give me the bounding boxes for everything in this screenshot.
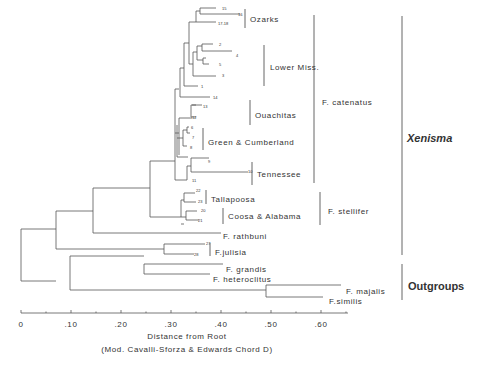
terminal-number: 1: [201, 84, 204, 89]
species-label: F. rathbuni: [223, 232, 267, 241]
terminal-number: 3: [222, 73, 225, 78]
tree-branches: [21, 8, 341, 297]
terminal-number: 21: [198, 218, 203, 223]
dendrogram-figure: OzarksLower Miss.OuachitasGreen & Cumber…: [0, 0, 483, 371]
axis-tick-label: .30: [165, 320, 178, 329]
major-group-label: Xenisma: [406, 132, 452, 144]
axis-tick-labels: 0.10.20.30.40.50.60: [18, 320, 327, 329]
terminal-number: 14: [213, 95, 218, 100]
terminal-number: 7: [192, 135, 195, 140]
axis-tick-label: .50: [265, 320, 278, 329]
species-label: F. catenatus: [322, 98, 372, 107]
species-label: F.julisia: [215, 248, 247, 257]
terminal-number: 2: [219, 42, 222, 47]
terminal-number: 28: [194, 252, 199, 257]
terminal-number: 17-18: [218, 21, 229, 26]
terminal-number: 16: [238, 12, 243, 17]
population-label: Green & Cumberland: [208, 138, 294, 147]
terminal-number: 4: [236, 53, 239, 58]
major-group-label: Outgroups: [408, 280, 464, 292]
species-label: F. grandis: [226, 265, 267, 274]
species-label: F.similis: [329, 297, 362, 306]
terminal-number: 20: [201, 208, 206, 213]
axis-tick-label: .10: [65, 320, 78, 329]
terminal-number: 22: [196, 188, 201, 193]
population-label: Lower Miss.: [270, 63, 319, 72]
axis-tick-label: 0: [18, 320, 23, 329]
axis-title: Distance from Root: [147, 332, 226, 341]
terminal-number: 13: [203, 104, 208, 109]
population-label: Tallapoosa: [211, 195, 255, 204]
terminal-number: 5: [219, 62, 222, 67]
axis-tick-label: .40: [215, 320, 228, 329]
species-label: F. majalis: [346, 287, 385, 296]
terminal-number: 10: [248, 169, 253, 174]
axis-subtitle: (Mod. Cavalli-Sforza & Edwards Chord D): [101, 345, 272, 354]
axis-tick-label: .60: [315, 320, 328, 329]
population-label: Ouachitas: [255, 111, 296, 120]
population-label: Coosa & Alabama: [228, 212, 301, 221]
terminal-number: 12: [192, 115, 197, 120]
terminal-number: 9: [208, 159, 211, 164]
species-label: F. heteroclitus: [213, 275, 271, 284]
terminal-number: 11: [192, 178, 197, 183]
population-label: Tennessee: [257, 170, 301, 179]
population-label: Ozarks: [250, 15, 279, 24]
terminal-number: 6: [191, 125, 194, 130]
axis-ticks: [21, 310, 346, 313]
distance-axis: 0.10.20.30.40.50.60 Distance from Root (…: [18, 310, 348, 354]
terminal-number: 27: [206, 241, 211, 246]
axis-tick-label: .20: [115, 320, 128, 329]
species-label: F. stellifer: [328, 207, 369, 216]
terminal-number: 15: [222, 6, 227, 11]
terminal-number: 23: [198, 199, 203, 204]
terminal-number: 8: [190, 145, 193, 150]
